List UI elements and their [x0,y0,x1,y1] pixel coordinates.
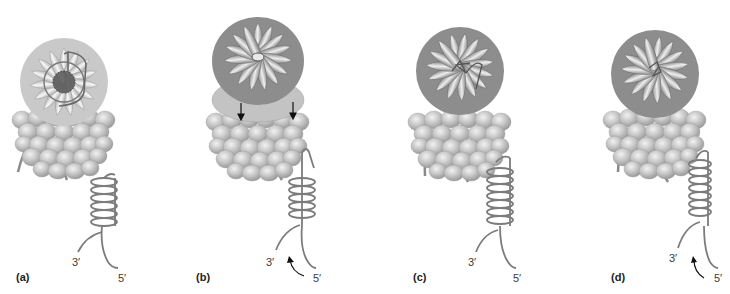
panel-d [603,30,718,278]
figure-canvas [0,0,730,294]
three-prime-label-a: 3′ [72,257,80,268]
hairpin-helix [78,174,118,268]
five-prime-label-c: 5′ [513,273,521,284]
upper-ring [20,38,108,126]
strand-5prime [302,226,316,268]
five-prime-label-d: 5′ [714,273,722,284]
cap-ring [611,30,699,118]
strand-5prime [102,226,118,268]
curved-arrow-icon [691,256,704,278]
panel-c [408,25,516,268]
cap-ring [416,25,504,115]
three-prime-label-c: 3′ [468,257,476,268]
five-prime-label-b: 5′ [313,273,321,284]
three-prime-label-b: 3′ [266,257,274,268]
strand-5prime [704,226,718,268]
strand-3prime [476,230,498,252]
strand-5prime [500,226,516,268]
panel-label-b: (b) [196,272,210,283]
strand-3prime [78,232,102,252]
panel-label-a: (a) [16,272,29,283]
cap-ring [212,17,304,105]
lower-ring-barrel [408,110,511,181]
strand-3prime [678,222,700,248]
five-prime-label-a: 5′ [118,273,126,284]
panel-label-c: (c) [413,272,426,283]
three-prime-label-d: 3′ [669,253,677,264]
strand-3prime [276,225,300,250]
panel-a [12,38,118,268]
panel-label-d: (d) [611,272,625,283]
panel-b [206,17,316,276]
curved-arrow-icon [287,256,304,276]
